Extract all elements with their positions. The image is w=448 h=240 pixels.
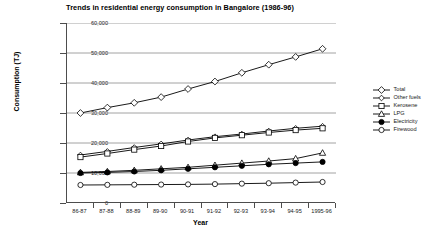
plot-area bbox=[66, 23, 335, 203]
data-point-total bbox=[212, 78, 219, 85]
legend-marker-glyph bbox=[379, 127, 384, 132]
data-point-kerosene bbox=[159, 143, 164, 148]
data-point-firewood bbox=[78, 182, 83, 187]
data-point-electricity bbox=[266, 162, 271, 167]
data-point-kerosene bbox=[320, 126, 325, 131]
chart-legend: TotalOther fuelsKeroseneLPGElectricityFi… bbox=[372, 86, 446, 133]
data-point-electricity bbox=[78, 170, 83, 175]
legend-item-other-fuels[interactable]: Other fuels bbox=[372, 94, 446, 101]
legend-item-electricity[interactable]: Electricity bbox=[372, 118, 446, 125]
legend-marker-icon bbox=[372, 102, 391, 110]
legend-marker-icon bbox=[372, 94, 391, 102]
data-series-layer bbox=[67, 23, 336, 203]
data-point-firewood bbox=[212, 182, 217, 187]
legend-item-total[interactable]: Total bbox=[372, 86, 446, 93]
y-axis-label: Consumption (TJ) bbox=[13, 22, 20, 142]
legend-marker-icon bbox=[372, 86, 391, 94]
series-line-lpg bbox=[80, 153, 322, 173]
data-point-total bbox=[319, 45, 326, 52]
data-point-electricity bbox=[159, 168, 164, 173]
legend-item-firewood[interactable]: Firewood bbox=[372, 126, 446, 133]
data-point-electricity bbox=[185, 166, 190, 171]
data-point-electricity bbox=[105, 170, 110, 175]
data-point-firewood bbox=[266, 181, 271, 186]
legend-marker-glyph bbox=[379, 103, 384, 108]
legend-marker-icon bbox=[372, 126, 391, 134]
data-point-total bbox=[104, 104, 111, 111]
data-point-firewood bbox=[185, 182, 190, 187]
data-point-total bbox=[292, 54, 299, 61]
data-point-kerosene bbox=[185, 139, 190, 144]
legend-marker-icon bbox=[372, 118, 391, 126]
y-axis-tick-mark bbox=[60, 203, 66, 204]
legend-item-lpg[interactable]: LPG bbox=[372, 110, 446, 117]
legend-label: Firewood bbox=[394, 126, 417, 133]
legend-label: Kerosene bbox=[394, 102, 418, 109]
data-point-total bbox=[131, 99, 138, 106]
legend-marker-icon bbox=[372, 110, 391, 118]
data-point-firewood bbox=[159, 182, 164, 187]
series-line-firewood bbox=[80, 182, 322, 185]
legend-marker-glyph bbox=[378, 86, 385, 93]
data-point-firewood bbox=[105, 182, 110, 187]
legend-label: Other fuels bbox=[394, 94, 421, 101]
data-point-lpg bbox=[319, 150, 325, 156]
legend-label: LPG bbox=[394, 110, 405, 117]
data-point-electricity bbox=[239, 163, 244, 168]
data-point-total bbox=[77, 110, 84, 117]
legend-marker-glyph bbox=[379, 95, 385, 101]
data-point-total bbox=[158, 94, 165, 101]
data-point-kerosene bbox=[78, 155, 83, 160]
data-point-electricity bbox=[212, 165, 217, 170]
data-point-kerosene bbox=[266, 130, 271, 135]
data-point-electricity bbox=[293, 161, 298, 166]
legend-label: Electricity bbox=[394, 118, 418, 125]
data-point-firewood bbox=[132, 182, 137, 187]
data-point-kerosene bbox=[293, 128, 298, 133]
data-point-total bbox=[238, 69, 245, 76]
legend-item-kerosene[interactable]: Kerosene bbox=[372, 102, 446, 109]
series-line-kerosene bbox=[80, 128, 322, 157]
data-point-firewood bbox=[239, 181, 244, 186]
data-point-total bbox=[265, 61, 272, 68]
series-line-total bbox=[80, 49, 322, 113]
x-axis-tick-label: 1995-96 bbox=[299, 208, 345, 214]
x-axis-tick-mark bbox=[335, 203, 336, 208]
legend-marker-glyph bbox=[379, 119, 384, 124]
data-point-kerosene bbox=[132, 147, 137, 152]
data-point-firewood bbox=[293, 180, 298, 185]
data-point-total bbox=[185, 86, 192, 93]
data-point-electricity bbox=[132, 169, 137, 174]
data-point-electricity bbox=[320, 159, 325, 164]
data-point-kerosene bbox=[212, 135, 217, 140]
x-axis-label: Year bbox=[66, 219, 335, 226]
chart-figure: Trends in residential energy consumption… bbox=[0, 0, 448, 240]
data-point-firewood bbox=[320, 179, 325, 184]
legend-label: Total bbox=[394, 86, 406, 93]
data-point-kerosene bbox=[105, 151, 110, 156]
data-point-kerosene bbox=[239, 133, 244, 138]
chart-title: Trends in residential energy consumption… bbox=[0, 3, 360, 12]
